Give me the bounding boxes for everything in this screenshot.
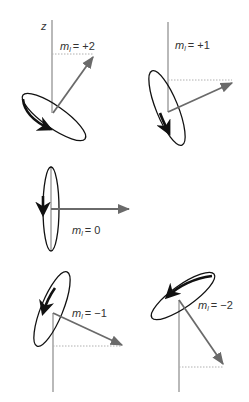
ml-label: ml= 0 — [72, 224, 100, 237]
angular-momentum-vector — [168, 83, 232, 112]
angular-momentum-vector — [53, 57, 93, 113]
precession-orbit — [142, 67, 192, 149]
precession-orbit — [17, 86, 92, 148]
z-axis-label: z — [40, 20, 47, 32]
panel-ml-0: ml= 0 — [43, 166, 129, 251]
panel-ml-plus-2: z ml= +2 — [17, 20, 95, 148]
precession-orbit — [146, 265, 221, 327]
ml-label: ml= +2 — [60, 40, 95, 53]
ml-label: ml= −2 — [198, 299, 233, 312]
ml-label: ml= −1 — [72, 307, 107, 320]
angular-momentum-precession-diagram: z ml= +2 ml= +1 ml= 0 ml= −1 — [0, 0, 249, 402]
panel-ml-minus-1: ml= −1 — [27, 268, 122, 392]
panel-ml-minus-2: ml= −2 — [146, 265, 233, 392]
orbit-direction-arrow — [43, 288, 55, 313]
ml-label: ml= +1 — [175, 39, 210, 52]
panel-ml-plus-1: ml= +1 — [142, 22, 232, 149]
precession-orbit — [27, 268, 77, 350]
